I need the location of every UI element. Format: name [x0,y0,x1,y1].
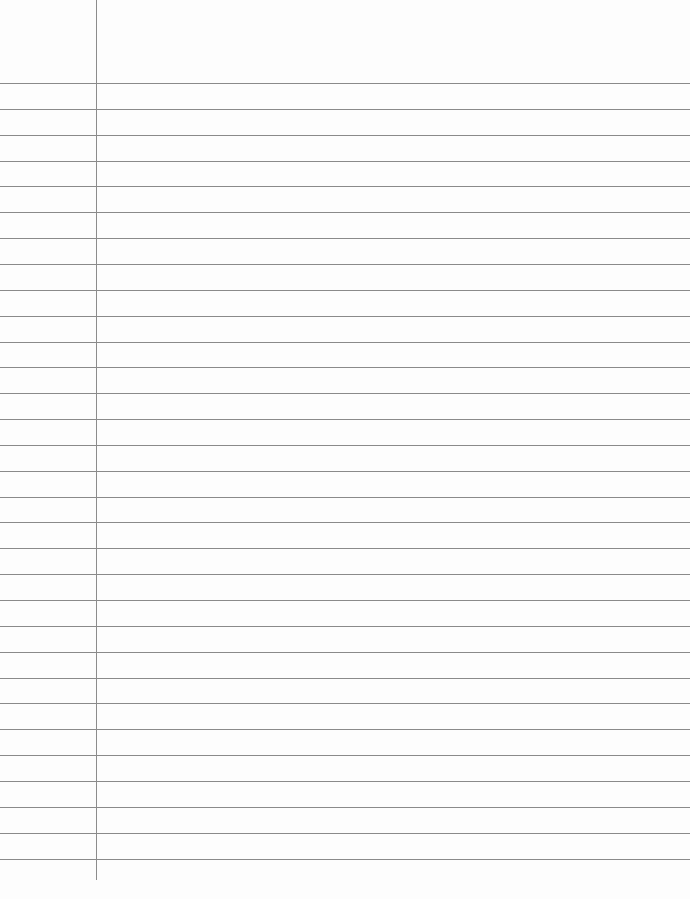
ruled-line [0,212,690,213]
ruled-line [0,781,690,782]
ruled-line [0,755,690,756]
ruled-line [0,548,690,549]
ruled-line [0,290,690,291]
ruled-line [0,109,690,110]
ruled-line [0,678,690,679]
margin-line [96,0,97,880]
ruled-line [0,729,690,730]
ruled-line [0,316,690,317]
ruled-line [0,83,690,84]
ruled-line [0,445,690,446]
ruled-line [0,471,690,472]
ruled-line [0,264,690,265]
lined-paper [0,0,690,899]
ruled-line [0,161,690,162]
ruled-line [0,419,690,420]
ruled-line [0,833,690,834]
ruled-line [0,135,690,136]
ruled-line [0,342,690,343]
ruled-line [0,238,690,239]
ruled-line [0,574,690,575]
ruled-line [0,393,690,394]
ruled-line [0,626,690,627]
ruled-line [0,859,690,860]
ruled-line [0,367,690,368]
ruled-line [0,497,690,498]
ruled-line [0,652,690,653]
ruled-line [0,703,690,704]
ruled-line [0,600,690,601]
ruled-line [0,807,690,808]
ruled-line [0,186,690,187]
ruled-line [0,522,690,523]
